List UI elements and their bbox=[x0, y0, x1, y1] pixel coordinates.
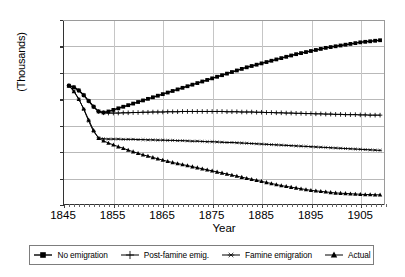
data-point-marker bbox=[220, 141, 224, 144]
series-line bbox=[69, 40, 380, 112]
data-point-marker bbox=[220, 109, 225, 114]
data-point-marker bbox=[333, 112, 338, 117]
data-point-marker bbox=[265, 60, 269, 64]
data-point-marker bbox=[319, 146, 323, 149]
data-point-marker bbox=[161, 139, 165, 142]
data-point-marker bbox=[131, 138, 135, 141]
x-axis-tick-minor bbox=[148, 204, 149, 207]
legend-item-post-famine-emig[interactable]: Post-famine emig. bbox=[119, 250, 209, 260]
data-point-marker bbox=[348, 112, 353, 117]
x-axis-tick-minor bbox=[178, 204, 179, 207]
data-point-marker bbox=[279, 144, 283, 147]
x-axis-tick-minor bbox=[173, 204, 174, 207]
data-point-marker bbox=[126, 110, 131, 115]
legend-item-no-emigration[interactable]: No emigration bbox=[32, 250, 107, 260]
data-point-marker bbox=[260, 61, 264, 65]
data-point-marker bbox=[348, 147, 352, 150]
data-point-marker bbox=[136, 100, 140, 104]
data-point-marker bbox=[279, 110, 284, 115]
x-axis-tick-minor bbox=[193, 204, 194, 207]
data-point-marker bbox=[175, 109, 180, 114]
legend-marker-plus-icon bbox=[119, 250, 141, 260]
legend-item-famine-emigration[interactable]: Famine emigration bbox=[220, 250, 312, 260]
data-point-marker bbox=[269, 110, 274, 115]
x-axis-tick-major bbox=[114, 204, 115, 208]
data-point-marker bbox=[368, 113, 373, 118]
x-axis-tick-minor bbox=[198, 204, 199, 207]
data-point-marker bbox=[353, 148, 357, 151]
data-point-marker bbox=[156, 110, 161, 115]
data-point-marker bbox=[116, 138, 120, 141]
data-point-marker bbox=[289, 111, 294, 116]
data-point-marker bbox=[181, 139, 185, 142]
data-point-marker bbox=[304, 145, 308, 148]
x-axis-tick-label: 1885 bbox=[238, 210, 284, 222]
x-axis-tick-minor bbox=[109, 204, 110, 207]
data-point-marker bbox=[353, 112, 358, 117]
x-axis-tick-minor bbox=[153, 204, 154, 207]
data-point-marker bbox=[141, 99, 145, 103]
data-point-marker bbox=[314, 146, 318, 149]
data-point-marker bbox=[314, 48, 318, 52]
x-axis-tick-major bbox=[262, 204, 263, 208]
data-point-marker bbox=[215, 109, 220, 114]
data-point-marker bbox=[264, 110, 269, 115]
x-axis-tick-minor bbox=[89, 204, 90, 207]
y-axis-title: (Thousands) bbox=[15, 0, 27, 127]
x-axis-tick-minor bbox=[94, 204, 95, 207]
data-point-marker bbox=[264, 143, 268, 146]
data-point-marker bbox=[324, 146, 328, 149]
data-point-marker bbox=[180, 109, 185, 114]
data-point-marker bbox=[210, 76, 214, 80]
data-point-marker bbox=[200, 80, 204, 84]
data-point-marker bbox=[205, 78, 209, 82]
data-point-marker bbox=[156, 139, 160, 142]
data-point-marker bbox=[205, 109, 210, 114]
data-point-marker bbox=[195, 109, 200, 114]
data-point-marker bbox=[126, 138, 130, 141]
data-point-marker bbox=[324, 46, 328, 50]
data-point-marker bbox=[141, 110, 146, 115]
data-point-marker bbox=[121, 105, 125, 109]
data-point-marker bbox=[146, 138, 150, 141]
data-point-marker bbox=[255, 63, 259, 67]
data-point-marker bbox=[363, 113, 368, 118]
data-point-marker bbox=[259, 110, 264, 115]
x-axis-tick-minor bbox=[237, 204, 238, 207]
data-point-marker bbox=[220, 73, 224, 77]
data-point-marker bbox=[171, 89, 175, 93]
data-point-marker bbox=[323, 112, 328, 117]
x-axis-tick-minor bbox=[84, 204, 85, 207]
x-axis-tick-minor bbox=[133, 204, 134, 207]
data-point-marker bbox=[111, 138, 115, 141]
data-point-marker bbox=[215, 141, 219, 144]
data-point-marker bbox=[245, 65, 249, 69]
data-point-marker bbox=[250, 142, 254, 145]
data-point-marker bbox=[299, 145, 303, 148]
data-point-marker bbox=[230, 70, 234, 74]
data-point-marker bbox=[200, 140, 204, 143]
legend-item-label: Post-famine emig. bbox=[144, 250, 209, 260]
data-point-marker bbox=[146, 110, 151, 115]
x-axis-tick-minor bbox=[341, 204, 342, 207]
data-point-marker bbox=[240, 67, 244, 71]
data-point-marker bbox=[185, 109, 190, 114]
x-axis-tick-minor bbox=[282, 204, 283, 207]
x-axis-tick-label: 1875 bbox=[189, 210, 235, 222]
x-axis-tick-minor bbox=[287, 204, 288, 207]
legend-item-actual[interactable]: Actual bbox=[323, 250, 370, 260]
data-point-marker bbox=[289, 54, 293, 58]
data-point-marker bbox=[235, 141, 239, 144]
series-line bbox=[69, 86, 380, 195]
x-axis-tick-minor bbox=[79, 204, 80, 207]
x-axis-tick-minor bbox=[307, 204, 308, 207]
data-point-marker bbox=[378, 113, 383, 118]
data-point-marker bbox=[284, 144, 288, 147]
series-post-famine-emig bbox=[67, 83, 383, 117]
data-point-marker bbox=[274, 143, 278, 146]
data-point-marker bbox=[156, 94, 160, 98]
data-point-marker bbox=[116, 111, 121, 116]
series-line bbox=[69, 86, 380, 151]
data-point-marker bbox=[166, 91, 170, 95]
data-point-marker bbox=[126, 103, 130, 107]
